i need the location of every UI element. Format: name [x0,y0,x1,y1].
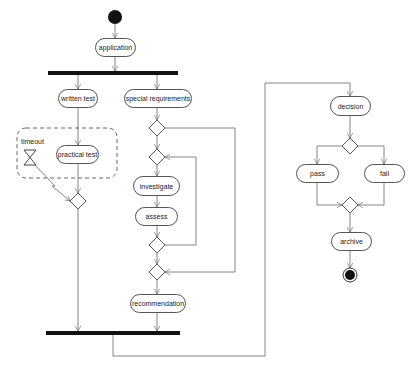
activity-recommendation: recommendation [130,294,186,313]
initial-node [108,10,122,24]
activity-pass: pass [296,164,339,183]
merge-node-tests [70,193,86,209]
activity-special-requirements: special requirements [124,89,192,108]
hourglass-icon [24,150,36,165]
decision-node-loop [149,237,165,253]
activity-application: application [95,38,136,57]
activity-archive: archive [331,232,372,251]
merge-node-result [342,197,358,213]
timeout-label: timeout [21,138,44,145]
activity-assess: assess [135,207,178,226]
fork-bar [48,71,178,75]
decision-node-1 [149,120,165,136]
final-node [345,270,355,280]
activity-decision: decision [330,96,371,116]
activity-investigate: investigate [133,176,180,196]
activity-diagram-canvas [0,0,417,368]
merge-node-loop [149,149,165,165]
activity-fail: fail [364,164,405,183]
activity-practical-test: practical test [56,145,99,164]
merge-node-2 [149,264,165,280]
decision-node-result [342,138,358,154]
join-bar [46,331,180,335]
activity-written-test: written test [58,89,98,108]
